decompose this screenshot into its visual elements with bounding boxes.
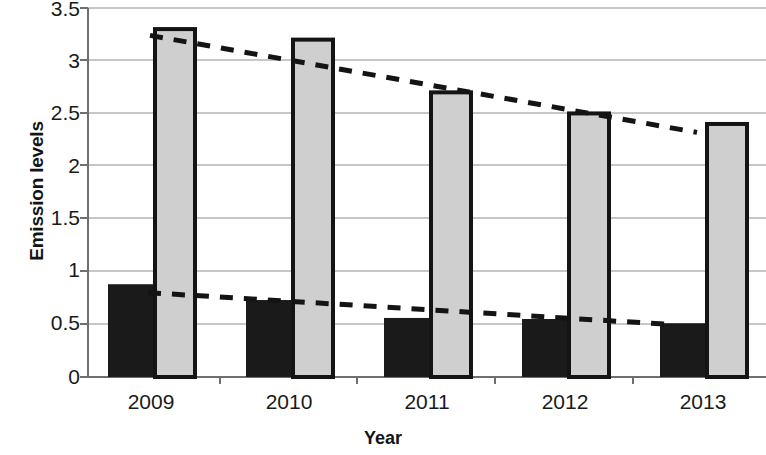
bar-gray-2009 (155, 29, 195, 377)
bar-gray-2010 (293, 40, 333, 377)
emission-levels-bar-chart: Emission levels 3.5 3 2.5 2 1.5 1 0.5 0 (0, 0, 766, 455)
x-axis-title: Year (0, 428, 766, 449)
x-tick-label-2013: 2013 (660, 390, 746, 414)
bar-gray-2012 (569, 113, 609, 377)
x-tick-label-2012: 2012 (522, 390, 608, 414)
bar-black-2011 (384, 318, 429, 377)
bar-black-2013 (660, 323, 705, 377)
x-tick-label-2009: 2009 (108, 390, 194, 414)
bar-gray-2011 (431, 92, 471, 377)
bar-black-2009 (108, 284, 153, 377)
bar-black-2010 (246, 300, 291, 377)
plot-area (0, 0, 766, 455)
x-tick-label-2011: 2011 (384, 390, 470, 414)
bar-black-2012 (522, 319, 567, 377)
bar-gray-2013 (707, 124, 747, 377)
x-tick-label-2010: 2010 (246, 390, 332, 414)
trendline-gray (150, 35, 697, 132)
trendlines-layer (148, 35, 697, 324)
y-axis (80, 8, 88, 377)
